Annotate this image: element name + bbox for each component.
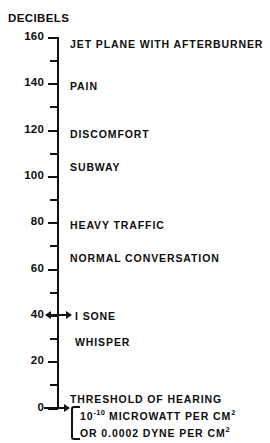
threshold-formula-watt-exponent: -10 xyxy=(93,408,105,417)
axis-tick-minor xyxy=(50,153,58,155)
axis-tick-label-wrap: 0 xyxy=(0,401,44,415)
axis-tick-major xyxy=(48,269,58,271)
axis-tick-minor xyxy=(50,292,58,294)
axis-tick-label-wrap: 100 xyxy=(0,169,44,183)
threshold-formula-watt: 10-10 MICROWATT PER CM2 xyxy=(70,406,236,423)
axis-tick-label: 100 xyxy=(18,169,44,181)
level-label: SUBWAY xyxy=(70,161,121,173)
axis-tick-label: 0 xyxy=(18,401,44,413)
axis-tick-minor xyxy=(50,384,58,386)
threshold-arrow-icon xyxy=(44,407,69,409)
axis-tick-label-wrap: 80 xyxy=(0,215,44,229)
threshold-formula-watt-base: 10 xyxy=(80,410,93,422)
axis-tick-label-wrap: 20 xyxy=(0,354,44,368)
sone-arrow-icon xyxy=(57,314,71,316)
axis-tick-minor xyxy=(50,245,58,247)
axis-tick-label-wrap: 120 xyxy=(0,123,44,137)
threshold-formula-dyne: OR 0.0002 DYNE PER CM2 xyxy=(70,423,236,440)
threshold-formula-watt-unit-exponent: 2 xyxy=(231,408,235,417)
threshold-title: THRESHOLD OF HEARING xyxy=(70,392,236,406)
axis-tick-label: 160 xyxy=(18,30,44,42)
level-label: HEAVY TRAFFIC xyxy=(70,219,165,231)
axis-tick-label: 60 xyxy=(18,262,44,274)
axis-tick-minor xyxy=(50,338,58,340)
axis-tick-label-wrap: 40 xyxy=(0,308,44,322)
axis-tick-label: 20 xyxy=(18,354,44,366)
decibel-scale-figure: DECIBELS 160140120100806040200 JET PLANE… xyxy=(0,0,270,443)
threshold-formula-dyne-base: OR 0.0002 DYNE PER CM xyxy=(80,426,226,438)
axis-tick-label-wrap: 140 xyxy=(0,76,44,90)
axis-tick-label: 120 xyxy=(18,123,44,135)
threshold-formula-dyne-exponent: 2 xyxy=(226,425,230,434)
level-label: NORMAL CONVERSATION xyxy=(70,252,220,264)
axis-tick-label: 140 xyxy=(18,76,44,88)
level-label: WHISPER xyxy=(75,336,130,348)
axis-tick-label-wrap: 160 xyxy=(0,30,44,44)
axis-tick-label: 40 xyxy=(18,308,44,320)
level-label: DISCOMFORT xyxy=(70,128,150,140)
level-label: I SONE xyxy=(75,310,116,322)
page-title: DECIBELS xyxy=(8,12,69,24)
threshold-block: THRESHOLD OF HEARING 10-10 MICROWATT PER… xyxy=(70,392,236,439)
level-label: JET PLANE WITH AFTERBURNER xyxy=(70,38,263,50)
level-label: PAIN xyxy=(70,80,98,92)
threshold-formula-watt-unit: MICROWATT PER CM xyxy=(105,410,231,422)
axis-tick-major xyxy=(48,176,58,178)
axis-tick-major xyxy=(48,130,58,132)
axis-tick-minor xyxy=(50,199,58,201)
axis-tick-label: 80 xyxy=(18,215,44,227)
axis-tick-minor xyxy=(50,60,58,62)
axis-tick-label-wrap: 60 xyxy=(0,262,44,276)
axis-tick-major xyxy=(48,37,58,39)
axis-tick-major xyxy=(48,361,58,363)
axis-tick-major xyxy=(48,83,58,85)
axis-tick-major xyxy=(48,222,58,224)
axis-tick-minor xyxy=(50,106,58,108)
